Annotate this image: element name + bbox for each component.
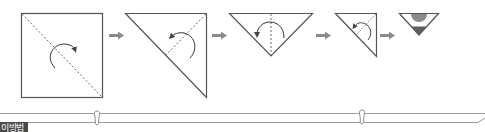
section-label-tab: 이방법 xyxy=(0,122,28,132)
step-5-finished xyxy=(400,14,439,36)
step-arrow-icon xyxy=(380,32,395,40)
ring-clip-icon xyxy=(359,110,364,124)
step-4-triangle xyxy=(336,14,377,57)
folding-diagram xyxy=(0,0,485,132)
step-3-triangle xyxy=(230,14,313,57)
dark-triangle-shape xyxy=(412,27,427,36)
step-1-square xyxy=(22,14,103,98)
step-arrow-icon xyxy=(212,32,227,40)
step-2-triangle xyxy=(126,14,207,98)
step-arrow-icon xyxy=(109,32,124,40)
bottom-rail xyxy=(0,110,485,125)
ring-clip-icon xyxy=(94,111,99,125)
step-arrow-icon xyxy=(316,32,331,40)
